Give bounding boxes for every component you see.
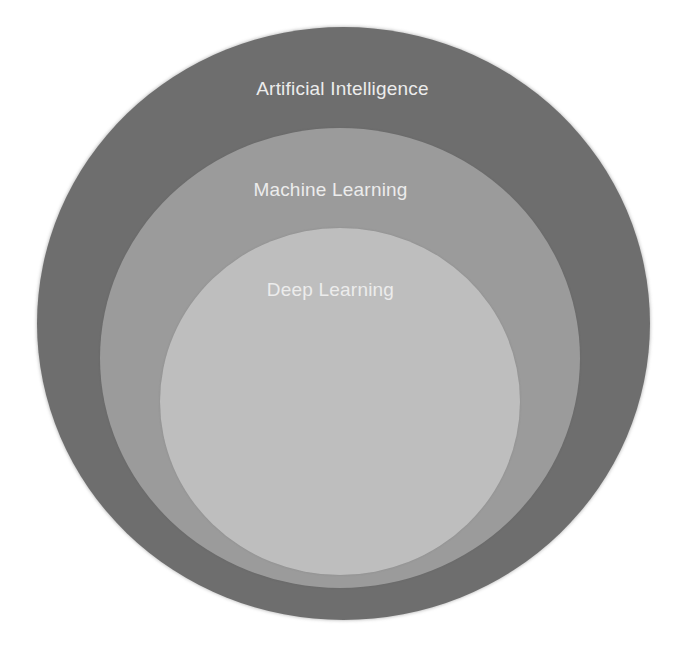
machine-learning-label: Machine Learning xyxy=(0,178,673,202)
artificial-intelligence-label: Artificial Intelligence xyxy=(0,77,685,101)
nested-circles-diagram: Artificial Intelligence Machine Learning… xyxy=(0,0,685,652)
deep-learning-label: Deep Learning xyxy=(0,278,673,302)
